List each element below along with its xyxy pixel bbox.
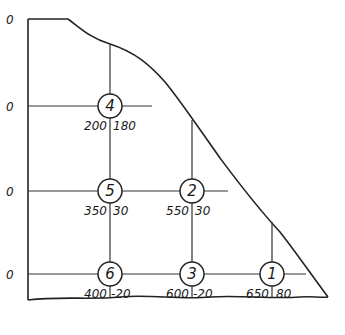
svg-text:5: 5 — [105, 182, 115, 200]
svg-text:1: 1 — [267, 265, 277, 283]
node-left-value: 400 — [84, 287, 107, 301]
svg-text:2: 2 — [187, 182, 197, 200]
row-label: 0 — [6, 185, 14, 199]
node-5: 5 350 30 — [84, 179, 129, 218]
node-right-value: 30 — [113, 204, 129, 218]
svg-text:4: 4 — [105, 97, 115, 115]
svg-text:3: 3 — [187, 265, 197, 283]
grid-diagram: 0 0 0 0 4 200 180 5 350 30 2 550 30 6 40… — [0, 0, 345, 335]
node-left-value: 600 — [166, 287, 189, 301]
node-right-value: 80 — [276, 287, 292, 301]
node-left-value: 350 — [84, 204, 107, 218]
node-1: 1 650 80 — [246, 262, 292, 301]
curved-boundary — [68, 19, 328, 297]
node-left-value: 200 — [84, 119, 107, 133]
node-right-value: -20 — [111, 287, 131, 301]
node-left-value: 550 — [166, 204, 189, 218]
node-left-value: 650 — [246, 287, 269, 301]
node-right-value: -20 — [193, 287, 213, 301]
row-label: 0 — [6, 100, 14, 114]
node-2: 2 550 30 — [166, 179, 211, 218]
node-right-value: 180 — [113, 119, 136, 133]
row-label: 0 — [6, 13, 14, 27]
node-3: 3 600 -20 — [166, 262, 213, 301]
node-right-value: 30 — [195, 204, 211, 218]
node-6: 6 400 -20 — [84, 262, 131, 301]
svg-text:6: 6 — [105, 265, 115, 283]
row-label: 0 — [6, 268, 14, 282]
